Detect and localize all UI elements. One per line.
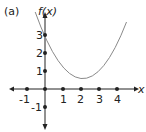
x-tick-label: 2	[77, 93, 84, 106]
function-graph: (a) f(x) x -1 1 2 3 4 -1 1 2 3	[0, 0, 146, 132]
parabola-curve	[35, 12, 126, 79]
x-axis-arrow-left-icon	[9, 87, 14, 92]
y-tick-dot	[43, 69, 47, 73]
panel-label: (a)	[4, 5, 19, 18]
x-tick-dot	[79, 87, 83, 91]
y-axis-arrow-down-icon	[43, 124, 48, 130]
x-axis-label: x	[137, 83, 145, 96]
x-tick-label: -1	[19, 93, 30, 106]
x-tick-dot	[25, 87, 29, 91]
x-tick-dot	[61, 87, 65, 91]
y-tick-dot	[43, 105, 47, 109]
x-tick-label: 1	[60, 93, 67, 106]
y-axis-label: f(x)	[38, 5, 57, 18]
x-tick-dot	[115, 87, 119, 91]
y-tick-label: -1	[31, 101, 42, 114]
y-tick-label: 1	[36, 65, 43, 78]
y-tick-label: 3	[36, 29, 43, 42]
x-tick-dot	[97, 87, 101, 91]
y-tick-label: 2	[36, 47, 43, 60]
y-tick-dot	[43, 33, 47, 37]
x-tick-label: 4	[114, 93, 121, 106]
x-tick-label: 3	[96, 93, 103, 106]
origin-dot	[43, 87, 47, 91]
y-tick-dot	[43, 51, 47, 55]
